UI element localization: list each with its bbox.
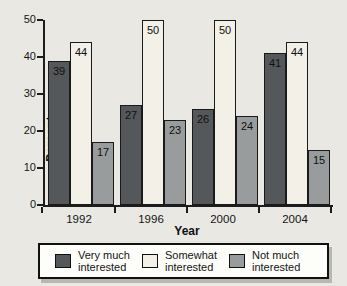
y-tick-mark bbox=[37, 56, 43, 58]
bar-value-label: 17 bbox=[93, 146, 113, 158]
bar-value-label: 41 bbox=[265, 57, 285, 69]
y-tick-label: 40 bbox=[2, 50, 36, 62]
legend-label: Not much interested bbox=[252, 249, 316, 274]
bar: 39 bbox=[48, 61, 70, 205]
y-tick-label: 50 bbox=[2, 13, 36, 25]
bar-value-label: 39 bbox=[49, 65, 69, 77]
legend-swatch bbox=[229, 254, 245, 268]
x-tick-mark bbox=[330, 207, 332, 213]
legend-item: Somewhat interested bbox=[142, 249, 229, 274]
y-tick-mark bbox=[37, 204, 43, 206]
bar-value-label: 44 bbox=[287, 46, 307, 58]
bar: 15 bbox=[308, 150, 330, 206]
y-tick-label: 0 bbox=[2, 198, 36, 210]
bar: 44 bbox=[70, 42, 92, 205]
y-tick-mark bbox=[37, 167, 43, 169]
bar: 50 bbox=[214, 20, 236, 205]
x-tick-mark bbox=[114, 207, 116, 213]
bar: 26 bbox=[192, 109, 214, 205]
x-tick-mark bbox=[258, 207, 260, 213]
legend-swatch bbox=[55, 254, 71, 268]
legend-item: Very much interested bbox=[55, 249, 142, 274]
bar: 41 bbox=[264, 53, 286, 205]
legend-label: Somewhat interested bbox=[165, 249, 229, 274]
bar-value-label: 24 bbox=[237, 120, 257, 132]
x-tick-mark bbox=[186, 207, 188, 213]
bar-chart-figure: Percent 394417275023265024414415 0102030… bbox=[0, 0, 347, 286]
plot-area: Percent 394417275023265024414415 bbox=[43, 20, 333, 207]
legend: Very much interestedSomewhat interestedN… bbox=[38, 243, 329, 279]
legend-item: Not much interested bbox=[229, 249, 316, 274]
bar-value-label: 50 bbox=[215, 24, 235, 36]
bar: 17 bbox=[92, 142, 114, 205]
x-tick-mark bbox=[41, 207, 43, 213]
y-tick-mark bbox=[37, 93, 43, 95]
y-tick-mark bbox=[37, 130, 43, 132]
bar-value-label: 50 bbox=[143, 24, 163, 36]
y-tick-label: 10 bbox=[2, 161, 36, 173]
y-tick-mark bbox=[37, 19, 43, 21]
x-axis-title: Year bbox=[43, 224, 331, 238]
bar: 24 bbox=[236, 116, 258, 205]
bar: 23 bbox=[164, 120, 186, 205]
bar-value-label: 26 bbox=[193, 113, 213, 125]
bar-value-label: 23 bbox=[165, 124, 185, 136]
bar-value-label: 44 bbox=[71, 46, 91, 58]
y-tick-label: 20 bbox=[2, 124, 36, 136]
bar: 50 bbox=[142, 20, 164, 205]
legend-label: Very much interested bbox=[78, 249, 142, 274]
bar: 27 bbox=[120, 105, 142, 205]
legend-swatch bbox=[142, 254, 158, 268]
y-tick-label: 30 bbox=[2, 87, 36, 99]
bar-value-label: 27 bbox=[121, 109, 141, 121]
bar-value-label: 15 bbox=[309, 154, 329, 166]
bar: 44 bbox=[286, 42, 308, 205]
